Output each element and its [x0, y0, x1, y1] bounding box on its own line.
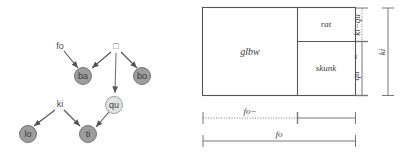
graph-node-ba-label: ba [78, 71, 88, 81]
block-diagram-panel: glbw rat skunk ki−qu qu = [200, 0, 418, 154]
measure-label-ki-minus-qu: ki−qu [352, 14, 362, 36]
graph-node-tofu[interactable]: □ [113, 41, 119, 51]
graph-node-fo[interactable]: fo [56, 41, 64, 51]
edge-qu-ti [96, 112, 109, 127]
edge-fo-ba [64, 51, 78, 68]
measure-fo: fo [203, 129, 356, 147]
graph-node-ti-label: ti [86, 129, 91, 139]
measure-fo-minus: fo− [203, 106, 356, 124]
graph-node-qu-label: qu [109, 100, 119, 110]
block-rectangles [203, 8, 356, 96]
edge-tofu-bo [121, 52, 137, 68]
edge-ki-ti [64, 110, 80, 126]
measure-label-fo-minus: fo− [243, 106, 256, 116]
measure-label-qu: qu [351, 71, 361, 81]
edge-tofu-ba [92, 52, 111, 68]
graph-node-lo[interactable]: lo [20, 126, 37, 143]
graph-node-ki[interactable]: ki [57, 99, 64, 109]
graph-node-ba[interactable]: ba [75, 68, 92, 85]
graph-node-lo-label: lo [24, 129, 31, 139]
block-label-rat: rat [321, 19, 332, 29]
graph-edges [34, 51, 137, 127]
figure-root: fo □ ki ba bo qu lo ti [0, 0, 418, 154]
directed-graph-panel: fo □ ki ba bo qu lo ti [0, 0, 200, 154]
edge-ki-lo [34, 110, 55, 126]
graph-node-ti[interactable]: ti [80, 126, 97, 143]
block-label-glbw: glbw [240, 46, 260, 57]
block-label-skunk: skunk [316, 63, 337, 73]
edge-tofu-qu [115, 53, 116, 93]
graph-node-qu[interactable]: qu [106, 97, 123, 114]
measure-ki: ki [377, 8, 394, 96]
graph-node-bo-label: bo [137, 71, 147, 81]
graph-node-bo[interactable]: bo [134, 68, 151, 85]
measure-label-fo: fo [275, 129, 283, 139]
block-outer [203, 8, 356, 96]
measure-label-qu-prefix: = [351, 54, 361, 60]
measure-label-ki: ki [377, 48, 387, 55]
